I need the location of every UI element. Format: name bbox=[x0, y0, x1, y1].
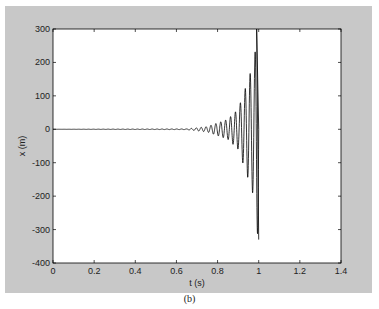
y-tick-label: -200 bbox=[32, 191, 50, 201]
x-tick-label: 0 bbox=[50, 266, 55, 276]
y-tick-label: 300 bbox=[35, 24, 50, 34]
plot-area bbox=[53, 29, 341, 263]
y-tick-label: -400 bbox=[32, 258, 50, 268]
y-tick-label: 0 bbox=[45, 124, 50, 134]
y-tick-label: 100 bbox=[35, 91, 50, 101]
x-tick-label: 1.2 bbox=[294, 266, 307, 276]
x-tick-label: 1 bbox=[256, 266, 261, 276]
y-tick-label: 200 bbox=[35, 57, 50, 67]
x-tick-label: 1.4 bbox=[335, 266, 348, 276]
x-tick-label: 0.8 bbox=[211, 266, 224, 276]
x-tick-label: 0.4 bbox=[129, 266, 142, 276]
x-tick-label: 0.2 bbox=[88, 266, 101, 276]
line-chart: 00.20.40.60.811.21.43002001000-100-200-3… bbox=[0, 0, 379, 309]
x-axis-label: t (s) bbox=[189, 278, 205, 288]
x-tick-label: 0.6 bbox=[170, 266, 183, 276]
y-tick-label: -100 bbox=[32, 158, 50, 168]
figure-caption: (b) bbox=[0, 293, 379, 304]
y-tick-label: -300 bbox=[32, 225, 50, 235]
y-axis-label: x (m) bbox=[17, 136, 27, 157]
